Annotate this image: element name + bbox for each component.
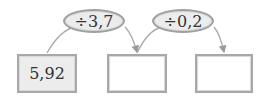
operation-oval-2: ÷0,2	[152, 9, 214, 33]
operation-label-2: ÷0,2	[164, 12, 203, 31]
operation-oval-1: ÷3,7	[63, 9, 125, 33]
operation-label-1: ÷3,7	[75, 12, 114, 31]
answer-box-2[interactable]	[195, 54, 253, 93]
arrow-1	[47, 27, 75, 53]
arrow-1-head	[125, 27, 137, 52]
arrow-2	[137, 27, 162, 53]
arrow-2-head	[214, 27, 224, 52]
value-box-start: 5,92	[17, 54, 77, 93]
start-value: 5,92	[29, 64, 65, 83]
answer-box-1[interactable]	[107, 54, 167, 93]
